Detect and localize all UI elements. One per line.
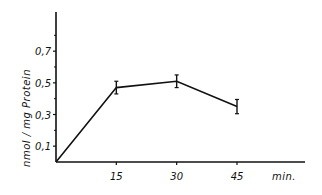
y-tick-label: 0,5 — [35, 78, 51, 89]
x-tick-label: 45 — [231, 171, 244, 182]
y-tick-label: 0,1 — [35, 141, 51, 152]
y-tick-label: 0,7 — [35, 46, 52, 57]
series-line — [56, 81, 237, 162]
y-ticks: 0,10,30,50,7 — [35, 35, 56, 152]
x-axis-label: min. — [272, 171, 296, 182]
x-ticks: 153045 — [110, 162, 243, 182]
line-chart: 0,10,30,50,7 153045 min. nmol / mg Prote… — [0, 0, 322, 195]
x-tick-label: 30 — [170, 171, 183, 182]
axes — [56, 12, 305, 162]
y-tick-label: 0,3 — [35, 110, 51, 121]
data-series — [56, 75, 239, 162]
x-tick-label: 15 — [110, 171, 123, 182]
y-axis-label: nmol / mg Protein — [21, 69, 32, 167]
